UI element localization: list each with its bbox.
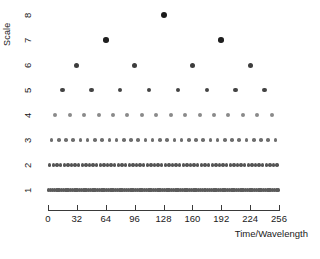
y-tick-label-4: 4 xyxy=(22,109,36,121)
x-tick-label-96: 96 xyxy=(120,213,150,224)
coefficient-row-scale-5 xyxy=(40,87,318,93)
data-point xyxy=(77,163,80,166)
data-point xyxy=(198,113,202,117)
data-point xyxy=(207,163,210,166)
y-tick-label-2: 2 xyxy=(22,159,36,171)
x-tick-label-224: 224 xyxy=(235,213,265,224)
data-point xyxy=(169,113,173,117)
data-point xyxy=(74,63,79,68)
data-point xyxy=(259,138,263,142)
data-point xyxy=(82,113,86,117)
x-tick-label-64: 64 xyxy=(91,213,121,224)
scatter-plot-figure: Scale 12345678 0326496128160192224256 Ti… xyxy=(0,0,320,259)
data-point xyxy=(103,37,109,43)
x-tick-0 xyxy=(48,205,49,211)
y-tick-label-8: 8 xyxy=(22,9,36,21)
data-point xyxy=(53,113,57,117)
data-point xyxy=(136,138,140,142)
data-point xyxy=(95,163,98,166)
x-tick-label-256: 256 xyxy=(264,213,294,224)
data-point xyxy=(57,138,61,142)
data-point xyxy=(48,163,51,166)
data-point xyxy=(225,163,228,166)
data-point xyxy=(59,163,62,166)
data-point xyxy=(97,113,101,117)
data-point xyxy=(108,138,112,142)
data-point xyxy=(233,88,238,93)
x-tick-192 xyxy=(221,205,222,211)
data-point xyxy=(187,138,191,142)
data-point xyxy=(60,88,65,93)
data-point xyxy=(243,163,246,166)
x-tick-label-32: 32 xyxy=(62,213,92,224)
x-tick-label-128: 128 xyxy=(149,213,179,224)
data-point xyxy=(89,88,94,93)
x-tick-160 xyxy=(192,205,193,211)
data-point xyxy=(151,138,155,142)
coefficient-row-scale-1 xyxy=(40,187,318,193)
data-point xyxy=(129,138,133,142)
data-point xyxy=(190,63,195,68)
x-tick-label-160: 160 xyxy=(177,213,207,224)
data-point xyxy=(241,113,245,117)
data-point xyxy=(79,138,83,142)
data-point xyxy=(115,138,119,142)
data-point xyxy=(212,113,216,117)
data-point xyxy=(262,88,267,93)
data-point xyxy=(122,138,126,142)
data-point xyxy=(158,138,162,142)
data-point xyxy=(71,138,75,142)
data-point xyxy=(230,138,234,142)
data-point xyxy=(154,113,158,117)
data-point xyxy=(165,138,169,142)
data-point xyxy=(276,188,279,191)
data-point xyxy=(183,113,187,117)
data-point xyxy=(50,138,54,142)
y-tick-label-6: 6 xyxy=(22,59,36,71)
coefficient-row-scale-4 xyxy=(40,112,318,118)
data-point xyxy=(261,163,264,166)
x-tick-label-0: 0 xyxy=(33,213,63,224)
data-point xyxy=(216,138,220,142)
data-point xyxy=(248,63,253,68)
data-point xyxy=(132,63,137,68)
data-point xyxy=(223,138,227,142)
data-point xyxy=(196,163,199,166)
data-point xyxy=(266,138,270,142)
coefficient-row-scale-6 xyxy=(40,62,318,68)
data-point xyxy=(140,113,144,117)
data-point xyxy=(86,138,90,142)
data-point xyxy=(111,113,115,117)
x-tick-128 xyxy=(164,205,165,211)
data-point xyxy=(161,12,167,18)
data-point xyxy=(100,138,104,142)
data-point xyxy=(125,113,129,117)
coefficient-row-scale-2 xyxy=(40,162,318,168)
data-point xyxy=(113,163,116,166)
data-point xyxy=(124,163,127,166)
y-axis-title: Scale xyxy=(2,4,16,64)
data-point xyxy=(68,113,72,117)
data-point xyxy=(144,138,148,142)
coefficient-row-scale-7 xyxy=(40,37,318,43)
data-point xyxy=(237,138,241,142)
x-tick-96 xyxy=(135,205,136,211)
data-point xyxy=(147,88,152,93)
plot-area xyxy=(40,4,318,200)
x-tick-224 xyxy=(250,205,251,211)
data-point xyxy=(274,138,278,142)
data-point xyxy=(252,138,256,142)
data-point xyxy=(201,138,205,142)
data-point xyxy=(245,138,249,142)
y-tick-label-5: 5 xyxy=(22,84,36,96)
data-point xyxy=(194,138,198,142)
data-point xyxy=(93,138,97,142)
data-point xyxy=(180,138,184,142)
x-tick-64 xyxy=(106,205,107,211)
data-point xyxy=(226,113,230,117)
coefficient-row-scale-8 xyxy=(40,12,318,18)
data-point xyxy=(218,37,224,43)
data-point xyxy=(255,113,259,117)
data-point xyxy=(178,163,181,166)
data-point xyxy=(205,88,210,93)
